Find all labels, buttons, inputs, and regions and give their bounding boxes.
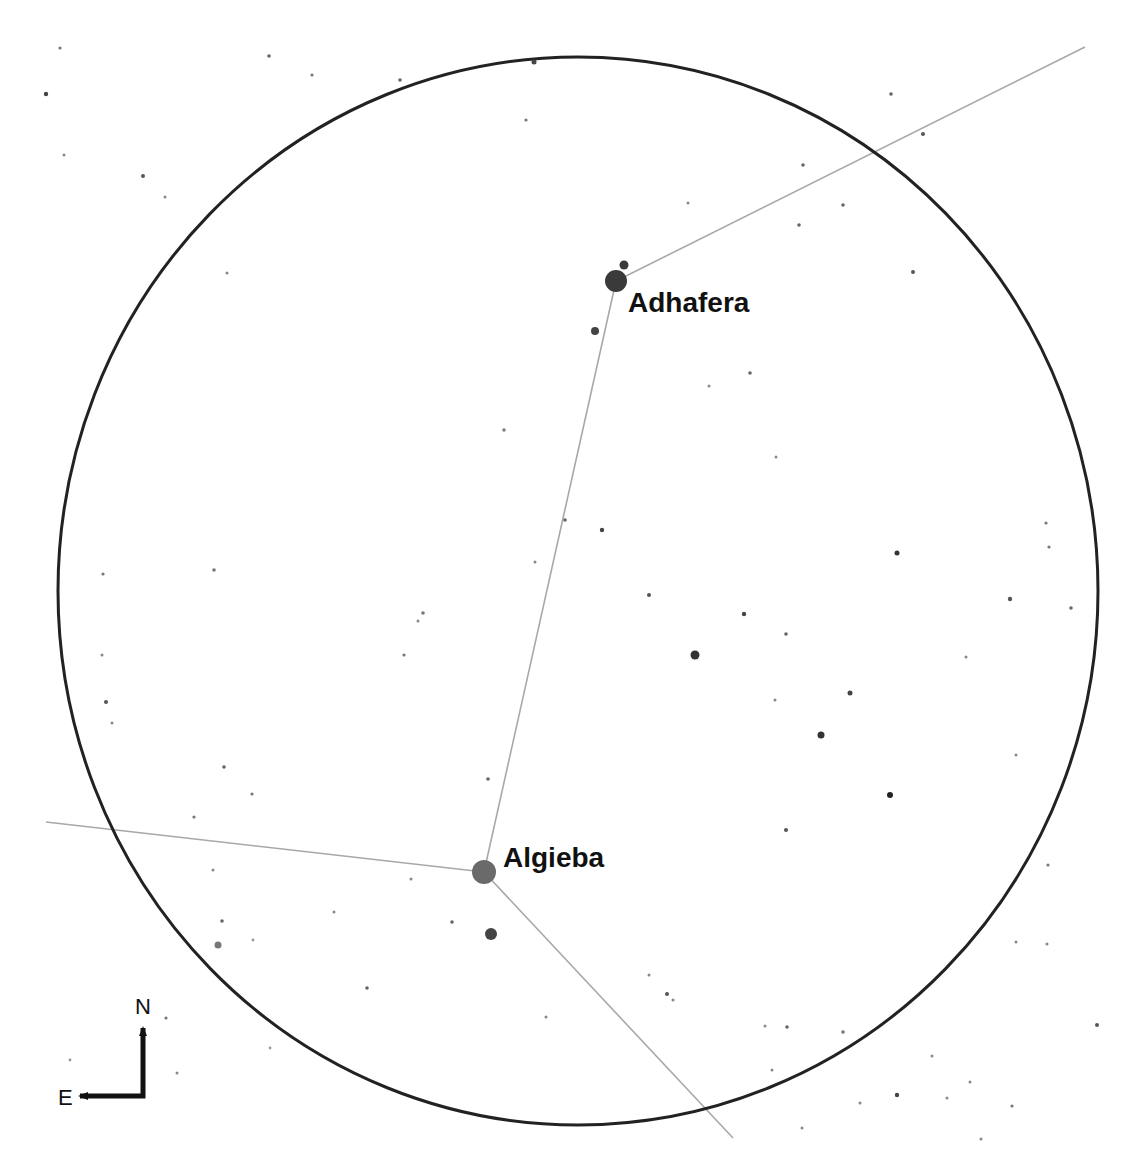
- compass-arrows: [78, 1026, 147, 1100]
- star-icon: [532, 60, 537, 65]
- star-icon: [410, 878, 413, 881]
- star-label-algieba: Algieba: [503, 844, 604, 872]
- north-arrowhead-icon: [139, 1026, 147, 1036]
- star-icon: [69, 1059, 72, 1062]
- star-icon: [63, 154, 66, 157]
- star-icon: [859, 1102, 862, 1105]
- field-of-view-circle: [58, 57, 1098, 1125]
- star-icon: [818, 732, 825, 739]
- star-icon: [895, 551, 900, 556]
- star-icon: [708, 385, 711, 388]
- star-icon: [164, 196, 167, 199]
- star-icon: [502, 428, 505, 431]
- star-icon: [226, 272, 229, 275]
- star-icon: [104, 700, 108, 704]
- star-icon: [665, 992, 669, 996]
- star-icon: [784, 632, 788, 636]
- star-icon: [600, 528, 604, 532]
- star-icon: [101, 654, 104, 657]
- constellation-line: [484, 281, 616, 872]
- star-icon: [252, 939, 255, 942]
- star-icon: [1015, 754, 1018, 757]
- star-icon: [310, 73, 313, 76]
- star-icon: [192, 815, 195, 818]
- star-icon: [176, 1072, 179, 1075]
- star-icon: [965, 656, 968, 659]
- star-icon: [797, 223, 801, 227]
- star-icon: [687, 202, 690, 205]
- compass-north-label: N: [135, 996, 151, 1018]
- star-icon: [220, 919, 224, 923]
- star-icon: [647, 593, 651, 597]
- constellation-line: [616, 47, 1085, 281]
- star-icon: [691, 651, 700, 660]
- star-icon: [402, 653, 405, 656]
- star-icon: [417, 620, 420, 623]
- star-field: [44, 46, 1099, 1140]
- star-icon: [774, 699, 777, 702]
- compass-east-label: E: [58, 1087, 73, 1109]
- star-icon: [771, 1069, 774, 1072]
- constellation-lines: [46, 47, 1085, 1138]
- star-icon: [545, 1016, 548, 1019]
- named-star-algieba-icon: [472, 860, 496, 884]
- star-icon: [365, 986, 369, 990]
- star-icon: [969, 1081, 972, 1084]
- star-icon: [921, 132, 925, 136]
- star-icon: [398, 78, 402, 82]
- star-icon: [748, 371, 752, 375]
- star-icon: [1046, 863, 1049, 866]
- star-icon: [841, 1030, 845, 1034]
- star-icon: [1095, 1023, 1099, 1027]
- constellation-line: [484, 872, 733, 1138]
- star-icon: [215, 942, 222, 949]
- star-icon: [775, 456, 778, 459]
- star-icon: [841, 203, 845, 207]
- star-icon: [848, 691, 853, 696]
- star-icon: [889, 92, 893, 96]
- star-icon: [450, 920, 454, 924]
- star-icon: [672, 999, 675, 1002]
- star-icon: [1046, 943, 1049, 946]
- star-icon: [222, 765, 226, 769]
- east-arrowhead-icon: [78, 1092, 88, 1100]
- star-icon: [101, 572, 104, 575]
- star-icon: [1015, 941, 1018, 944]
- star-icon: [1008, 597, 1012, 601]
- star-icon: [44, 92, 48, 96]
- star-icon: [421, 611, 425, 615]
- named-star-adhafera-icon: [605, 270, 627, 292]
- star-icon: [1010, 1104, 1013, 1107]
- star-icon: [269, 1047, 272, 1050]
- star-icon: [250, 792, 253, 795]
- star-icon: [620, 261, 629, 270]
- star-icon: [534, 561, 537, 564]
- star-icon: [801, 1127, 804, 1130]
- star-icon: [1047, 545, 1050, 548]
- star-icon: [164, 1016, 167, 1019]
- star-icon: [801, 163, 805, 167]
- compass-arrow-icon: [80, 1028, 143, 1096]
- star-icon: [212, 568, 216, 572]
- star-icon: [895, 1093, 899, 1097]
- star-icon: [524, 118, 527, 121]
- star-icon: [764, 1025, 767, 1028]
- star-icon: [58, 46, 61, 49]
- star-icon: [946, 1097, 949, 1100]
- star-chart: [0, 0, 1137, 1167]
- star-icon: [485, 928, 497, 940]
- star-icon: [648, 974, 651, 977]
- star-icon: [784, 828, 788, 832]
- star-icon: [1069, 606, 1073, 610]
- star-icon: [931, 1055, 934, 1058]
- star-icon: [1044, 521, 1047, 524]
- star-icon: [742, 612, 746, 616]
- star-label-adhafera: Adhafera: [628, 289, 749, 317]
- star-icon: [141, 174, 145, 178]
- star-icon: [333, 911, 336, 914]
- star-icon: [563, 518, 567, 522]
- star-icon: [591, 327, 599, 335]
- star-icon: [111, 722, 114, 725]
- star-icon: [911, 270, 915, 274]
- star-icon: [486, 777, 490, 781]
